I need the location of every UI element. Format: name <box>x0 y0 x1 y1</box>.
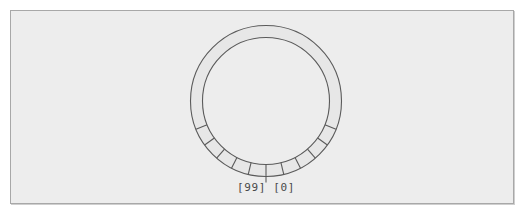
figure-root: [99] [0] <box>0 0 530 218</box>
ring-annulus-shape <box>191 26 342 177</box>
slot-index-label: [99] [0] <box>237 181 295 194</box>
ring-group <box>191 26 342 183</box>
ring-diagram-canvas: [99] [0] <box>0 0 530 218</box>
